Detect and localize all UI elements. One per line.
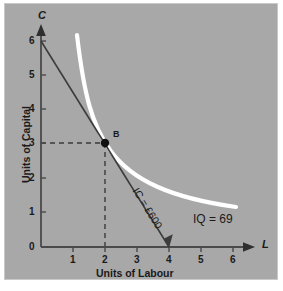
x-axis-title: Units of Labour — [96, 268, 174, 279]
y-tick-label-6: 6 — [29, 36, 35, 46]
guideline-group — [41, 143, 105, 247]
y-axis-arrow-icon — [36, 24, 46, 36]
y-tick-label-1: 1 — [29, 207, 35, 217]
x-tick-label-4: 4 — [166, 255, 172, 265]
x-tick-label-3: 3 — [134, 255, 140, 265]
x-axis-letter: L — [262, 239, 269, 250]
x-tick-label-2: 2 — [102, 255, 108, 265]
isoquant-label: IQ = 69 — [193, 213, 233, 225]
y-axis-title: Units of Capital — [21, 106, 32, 183]
point-b-marker — [101, 139, 109, 147]
x-axis-arrow-icon — [243, 242, 255, 252]
chart-plot-svg — [0, 0, 283, 291]
figure-container: C L 0 1 2 3 4 5 6 1 2 3 4 5 6 Units of C… — [0, 0, 283, 291]
y-axis-letter: C — [38, 10, 46, 21]
x-tick-label-5: 5 — [198, 255, 204, 265]
x-tick-label-1: 1 — [70, 255, 76, 265]
isoquant-curve — [77, 35, 236, 207]
point-b-label: B — [113, 130, 120, 139]
x-tick-label-6: 6 — [230, 255, 236, 265]
y-tick-label-5: 5 — [29, 70, 35, 80]
y-tick-label-0: 0 — [29, 242, 35, 252]
